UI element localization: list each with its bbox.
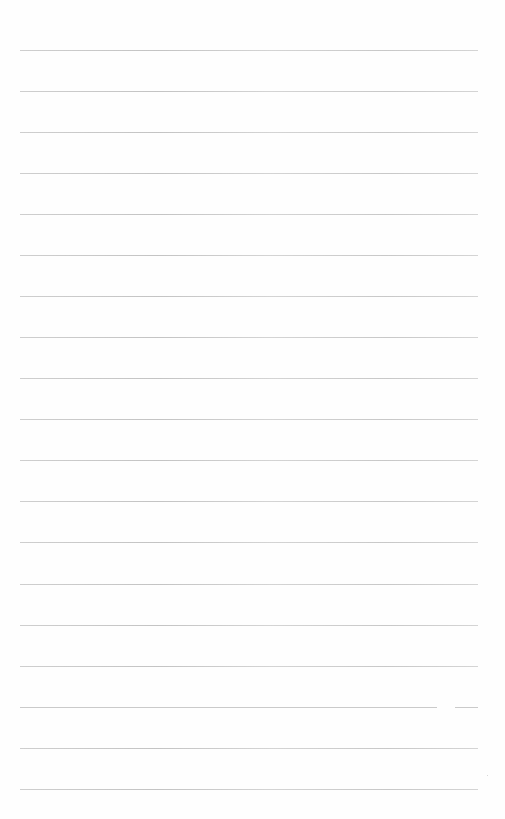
ruled-line (20, 296, 478, 297)
ruled-line (20, 707, 478, 708)
ruled-line (20, 50, 478, 51)
ruled-line (20, 173, 478, 174)
lined-paper-page (0, 0, 505, 819)
ruled-line (20, 337, 478, 338)
paper-speck (487, 775, 488, 776)
ruled-line (20, 542, 478, 543)
ruled-line (20, 625, 478, 626)
ruled-line (20, 419, 478, 420)
ruled-line (20, 460, 478, 461)
ruled-line (20, 378, 478, 379)
ruled-line (20, 789, 478, 790)
ruled-line (20, 501, 478, 502)
ruled-line (20, 132, 478, 133)
ruled-line (20, 214, 478, 215)
ruled-line (20, 584, 478, 585)
ruled-line (20, 255, 478, 256)
ruled-line (20, 666, 478, 667)
ruled-line (20, 91, 478, 92)
ruled-line (20, 748, 478, 749)
